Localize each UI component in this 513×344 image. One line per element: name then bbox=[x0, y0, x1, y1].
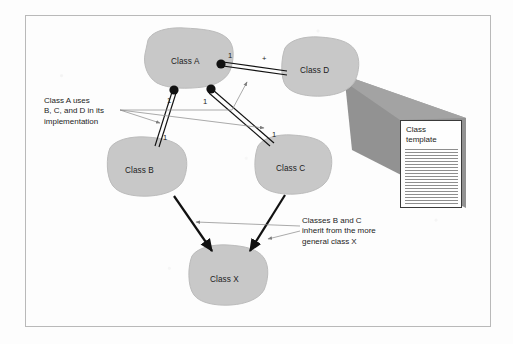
class-template-rule bbox=[405, 149, 458, 150]
class-template-rule bbox=[405, 173, 458, 174]
class-template-rule bbox=[405, 170, 458, 171]
leader-inherit-to-cx bbox=[268, 231, 300, 239]
annotation-uses: Class A uses B, C, and D in its implemen… bbox=[44, 96, 139, 127]
leader-inherit-to-bx bbox=[196, 222, 300, 226]
class-template-rule bbox=[405, 164, 458, 165]
multiplicity-a-to-b-near-a: 1 bbox=[167, 96, 171, 105]
figure-canvas: Class A Class D Class B Class C Class X … bbox=[0, 0, 513, 344]
class-template-rule bbox=[405, 152, 458, 153]
class-a-label: Class A bbox=[171, 57, 199, 66]
class-template-rule bbox=[405, 155, 458, 156]
class-template-rule bbox=[405, 161, 458, 162]
multiplicity-a-to-d-near-d: + bbox=[262, 54, 266, 63]
class-template-rule bbox=[405, 200, 458, 201]
class-x-label: Class X bbox=[210, 275, 239, 284]
class-template-rule bbox=[405, 185, 458, 186]
class-template-title: Class template bbox=[406, 125, 437, 145]
class-template-rule bbox=[405, 188, 458, 189]
class-template-rule bbox=[405, 176, 458, 177]
class-b-label: Class B bbox=[125, 166, 154, 175]
class-c-label: Class C bbox=[276, 164, 305, 173]
class-d-label: Class D bbox=[300, 66, 329, 75]
class-template-rule bbox=[405, 197, 458, 198]
class-template-rule bbox=[405, 194, 458, 195]
leader-uses-to-ac bbox=[120, 110, 264, 128]
multiplicity-a-to-d-near-a: 1 bbox=[228, 51, 232, 60]
class-template-rule bbox=[405, 203, 458, 204]
class-template-rule bbox=[405, 158, 458, 159]
annotation-inherits: Classes B and C inherit from the more ge… bbox=[302, 216, 410, 247]
multiplicity-a-to-b-near-b: 1 bbox=[163, 133, 167, 142]
class-template-box[interactable]: Class template bbox=[400, 120, 462, 208]
multiplicity-a-to-c-near-c: 1 bbox=[272, 130, 276, 139]
class-template-rule bbox=[405, 182, 458, 183]
class-template-rule bbox=[405, 191, 458, 192]
class-template-rule bbox=[405, 179, 458, 180]
class-template-rule bbox=[405, 167, 458, 168]
class-template-rule-lines bbox=[405, 149, 458, 206]
multiplicity-a-to-c-near-a: 1 bbox=[203, 97, 207, 106]
leader-uses-to-ad bbox=[120, 82, 247, 110]
